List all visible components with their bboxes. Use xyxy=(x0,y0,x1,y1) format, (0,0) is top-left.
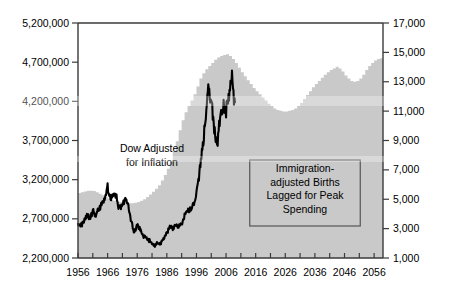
x-axis-tick-label: 1986 xyxy=(155,266,179,278)
x-axis-tick-label: 2006 xyxy=(214,266,238,278)
y-axis-left-tick-label: 5,200,000 xyxy=(22,17,69,29)
y-axis-right-tick-label: 17,000 xyxy=(393,17,425,29)
x-axis-tick-label: 2046 xyxy=(333,266,357,278)
scan-artifact-band-lower xyxy=(0,156,451,162)
dow-annotation-line: Dow Adjusted xyxy=(120,142,184,154)
births-annotation-line: Immigration- xyxy=(276,162,335,174)
births-annotation-line: Lagged for Peak xyxy=(266,189,344,201)
y-axis-left-tick-label: 2,700,000 xyxy=(22,212,69,224)
x-axis-tick-label: 2026 xyxy=(274,266,298,278)
y-axis-right-tick-label: 3,000 xyxy=(393,222,419,234)
chart-container: 1956196619761986199620062016202620362046… xyxy=(0,0,451,293)
x-axis-ticks xyxy=(78,253,374,258)
y-axis-right-tick-label: 5,000 xyxy=(393,193,419,205)
births-annotation-line: Spending xyxy=(283,203,328,215)
y-axis-right-tick-label: 13,000 xyxy=(393,75,425,87)
x-axis-tick-label: 2056 xyxy=(362,266,386,278)
scan-artifact-band-upper xyxy=(0,96,451,106)
chart-svg: 1956196619761986199620062016202620362046… xyxy=(0,0,451,293)
y-axis-left-tick-label: 3,200,000 xyxy=(22,173,69,185)
births-annotation-line: adjusted Births xyxy=(270,176,339,188)
x-axis-labels: 1956196619761986199620062016202620362046… xyxy=(66,266,386,278)
x-axis-tick-label: 2016 xyxy=(244,266,268,278)
y-axis-left-tick-label: 2,200,000 xyxy=(22,252,69,264)
y-axis-right-tick-label: 1,000 xyxy=(393,252,419,264)
y-axis-right-tick-label: 15,000 xyxy=(393,46,425,58)
y-axis-left-tick-label: 4,700,000 xyxy=(22,56,69,68)
x-axis-tick-label: 1956 xyxy=(66,266,90,278)
x-axis-tick-label: 1996 xyxy=(185,266,209,278)
y-axis-right-tick-label: 11,000 xyxy=(393,105,424,117)
x-axis-tick-label: 1976 xyxy=(126,266,150,278)
x-axis-tick-label: 2036 xyxy=(303,266,327,278)
y-axis-right-tick-label: 7,000 xyxy=(393,163,419,175)
y-axis-left-tick-label: 3,700,000 xyxy=(22,134,69,146)
x-axis-tick-label: 1966 xyxy=(96,266,120,278)
y-axis-right-tick-label: 9,000 xyxy=(393,134,419,146)
